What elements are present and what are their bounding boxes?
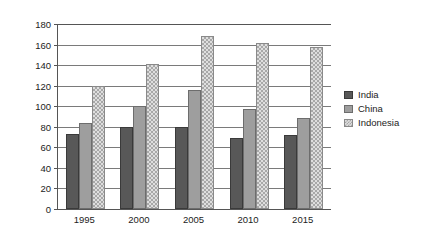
legend-label: India	[358, 89, 379, 100]
bar[interactable]	[175, 127, 188, 209]
bar[interactable]	[92, 86, 105, 209]
y-tick-label: 20	[40, 183, 51, 194]
legend-swatch-icon	[344, 119, 353, 127]
x-tick-label: 2010	[238, 214, 259, 225]
bar[interactable]	[146, 64, 159, 209]
x-tick-label: 2000	[128, 214, 149, 225]
y-tick-label: 80	[40, 121, 51, 132]
legend-item[interactable]: India	[344, 89, 399, 100]
bar-group	[175, 24, 214, 209]
bar-group	[66, 24, 105, 209]
y-tick-label: 60	[40, 142, 51, 153]
bar[interactable]	[230, 138, 243, 209]
bar[interactable]	[133, 106, 146, 209]
legend-swatch-icon	[344, 105, 353, 113]
bars-layer	[58, 24, 331, 209]
bar[interactable]	[243, 109, 256, 209]
y-tick-label: 180	[35, 19, 51, 30]
bar[interactable]	[120, 127, 133, 209]
y-tick-label: 140	[35, 60, 51, 71]
x-tick-label: 1995	[74, 214, 95, 225]
watermark-text	[132, 0, 292, 16]
legend-label: Indonesia	[358, 117, 399, 128]
x-tick-label: 2005	[183, 214, 204, 225]
y-tick-label: 120	[35, 80, 51, 91]
chart-legend: IndiaChinaIndonesia	[344, 89, 399, 131]
y-tick-label: 0	[46, 204, 51, 215]
bar[interactable]	[256, 43, 269, 210]
bar-group	[284, 24, 323, 209]
bar[interactable]	[284, 135, 297, 209]
x-tick-label: 2015	[292, 214, 313, 225]
plot-area: 020406080100120140160180	[57, 24, 331, 210]
bar[interactable]	[297, 118, 310, 209]
bar[interactable]	[66, 134, 79, 209]
legend-label: China	[358, 103, 383, 114]
y-tick-label: 40	[40, 162, 51, 173]
legend-swatch-icon	[344, 91, 353, 99]
bar-group	[120, 24, 159, 209]
y-tick-label: 160	[35, 39, 51, 50]
legend-item[interactable]: China	[344, 103, 399, 114]
bar[interactable]	[310, 47, 323, 209]
bar[interactable]	[201, 36, 214, 209]
y-tick-label: 100	[35, 101, 51, 112]
bar[interactable]	[79, 123, 92, 209]
legend-item[interactable]: Indonesia	[344, 117, 399, 128]
bar-group	[230, 24, 269, 209]
bar[interactable]	[188, 90, 201, 209]
y-tick-mark	[54, 209, 58, 210]
bar-chart: Kilograms/year 020406080100120140160180 …	[0, 0, 422, 244]
